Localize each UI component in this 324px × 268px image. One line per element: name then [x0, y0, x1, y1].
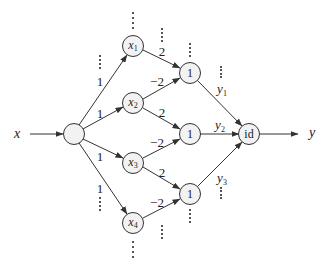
hidden-node-2-label: 1 [187, 128, 193, 140]
network-diagram: x y x1 x2 x3 x4 1 1 1 id 1 1 1 1 2 −2 2 … [0, 0, 324, 268]
weight-x4-h3: −2 [150, 196, 164, 209]
ellipsis-dots [132, 241, 134, 258]
weight-x3-h3: 2 [159, 166, 166, 179]
node-x1-label: x1 [128, 39, 137, 53]
ellipsis-dots [99, 197, 101, 211]
weight-in-x1: 1 [97, 75, 104, 88]
hidden-node-1-label: 1 [187, 67, 193, 79]
output-y1: y1 [217, 82, 227, 99]
hidden-node-3-label: 1 [187, 188, 193, 200]
output-y3: y3 [217, 171, 227, 188]
output-label: y [309, 126, 315, 140]
weight-x2-h2: 2 [159, 106, 166, 119]
ellipsis-dots [132, 12, 134, 29]
ellipsis-dots [189, 43, 191, 57]
ellipsis-dots [189, 209, 191, 223]
output-y2: y2 [215, 118, 225, 135]
input-node [64, 124, 85, 145]
weight-x1-h1: 2 [159, 45, 166, 58]
ellipsis-dots [99, 55, 101, 69]
weight-x2-h1: −2 [150, 75, 164, 88]
output-node-label: id [244, 128, 253, 140]
weight-in-x4: 1 [97, 182, 104, 195]
ellipsis-dots [220, 66, 222, 78]
weight-in-x3: 1 [97, 150, 104, 163]
node-x4-label: x4 [128, 216, 137, 230]
ellipsis-dots [220, 187, 222, 199]
weight-x3-h2: −2 [150, 136, 164, 149]
weight-in-x2: 1 [97, 107, 104, 120]
ellipsis-dots [161, 28, 163, 42]
node-x2-label: x2 [128, 96, 137, 110]
node-x3-label: x3 [128, 156, 137, 170]
ellipsis-dots [161, 225, 163, 239]
input-label: x [14, 127, 20, 141]
